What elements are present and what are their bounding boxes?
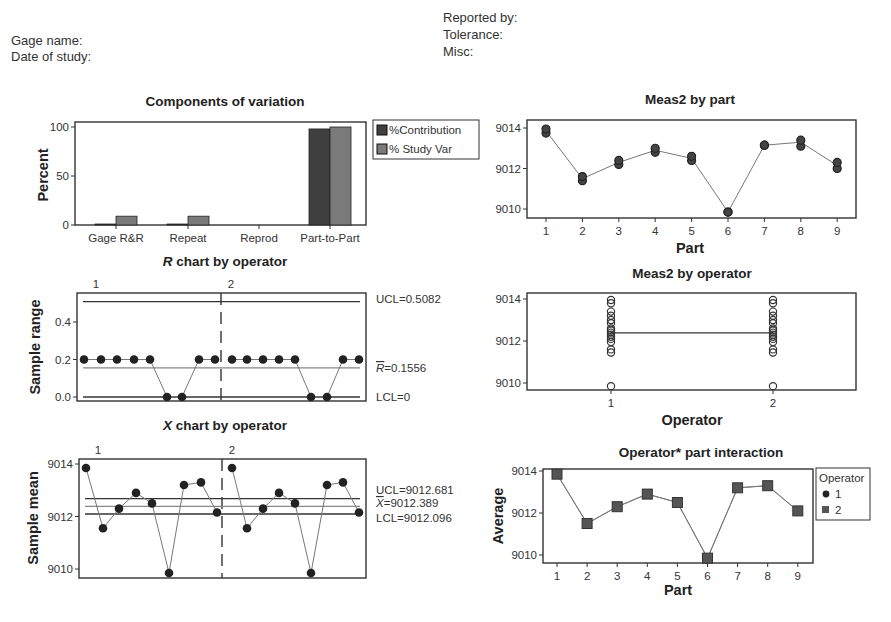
series-line (84, 360, 215, 398)
data-point (323, 481, 332, 490)
legend-label: %Contribution (389, 124, 461, 136)
components-x-tick-label: Gage R&R (88, 232, 144, 244)
data-point (355, 355, 364, 364)
x-tick-label: 2 (770, 397, 776, 409)
interaction-plot-area: 901090129014123456789Operator12 (511, 465, 870, 582)
data-point (195, 355, 204, 364)
data-point (582, 519, 592, 529)
y-tick-label: 9014 (495, 293, 521, 305)
data-point (165, 569, 174, 578)
data-point (228, 355, 237, 364)
data-point (688, 152, 696, 160)
operator-label: 2 (229, 444, 235, 456)
series-line (557, 474, 798, 558)
x-tick-label: 6 (725, 225, 731, 237)
data-point (615, 156, 623, 164)
components-x-tick-label: Reprod (240, 232, 278, 244)
data-point (724, 208, 732, 216)
data-point (642, 489, 652, 499)
interaction-ylabel: Average (490, 488, 506, 545)
y-tick-label: 0.4 (55, 316, 72, 328)
x-tick-label: 9 (834, 225, 840, 237)
data-point (80, 355, 89, 364)
square-marker-icon (822, 506, 829, 513)
center-label: X=9012.389 (375, 497, 438, 509)
y-tick-label: 9014 (47, 458, 73, 470)
circle-marker-icon (823, 491, 830, 498)
interaction-xlabel: Part (664, 582, 692, 598)
x-tick-label: 5 (674, 570, 680, 582)
components-x-tick-label: Repeat (169, 232, 207, 244)
meas-by-part-plot-area: 901090129014123456789 (495, 120, 856, 237)
data-point (833, 158, 841, 166)
operator-label: 1 (95, 444, 101, 456)
data-point (291, 355, 300, 364)
x-tick-label: 1 (554, 570, 560, 582)
meas-by-operator-chart: Meas2 by operator Operator 9010901290141… (495, 266, 856, 428)
control-chart-frame (77, 293, 366, 401)
y-tick-label: 9010 (511, 549, 537, 561)
data-point (180, 481, 189, 490)
data-point (213, 508, 222, 517)
x-tick-label: 6 (704, 570, 710, 582)
data-point (259, 504, 268, 513)
x-tick-label: 7 (761, 225, 767, 237)
y-tick-label: 9010 (495, 377, 521, 389)
data-point (339, 478, 348, 487)
legend-label: 2 (835, 504, 841, 516)
r-chart-by-operator: R chart by operator Sample range 0.00.20… (27, 254, 441, 403)
data-point (113, 355, 122, 364)
data-point (132, 489, 141, 498)
gage-rr-report-canvas: Components of variation Percent 050100Ga… (0, 0, 891, 622)
y-tick-label: 9010 (47, 563, 73, 575)
xbar-chart-title: X chart by operator (162, 418, 288, 433)
x-tick-label: 1 (608, 397, 614, 409)
ucl-label: UCL=9012.681 (376, 484, 454, 496)
meas-by-part-title: Meas2 by part (645, 92, 736, 107)
meas-by-part-frame (527, 120, 856, 218)
bar-contribution (95, 224, 116, 225)
y-tick-label: 9014 (495, 122, 521, 134)
data-point (243, 524, 252, 533)
data-point (275, 489, 284, 498)
data-point (763, 481, 773, 491)
mean-line (546, 131, 837, 212)
data-point (797, 136, 805, 144)
data-point (148, 499, 157, 508)
data-point (130, 355, 139, 364)
x-tick-label: 9 (795, 570, 801, 582)
ucl-label: UCL=0.5082 (376, 293, 441, 305)
data-point (578, 173, 586, 181)
meas-by-part-chart: Meas2 by part Part 901090129014123456789 (495, 92, 856, 256)
components-title: Components of variation (145, 94, 304, 109)
bar-studyvar (330, 127, 351, 225)
x-tick-label: 1 (543, 225, 549, 237)
data-point (99, 524, 108, 533)
operator-label: 1 (93, 278, 99, 290)
x-tick-label: 2 (584, 570, 590, 582)
data-point (307, 569, 316, 578)
data-point (612, 502, 622, 512)
x-tick-label: 8 (764, 570, 770, 582)
data-point (733, 483, 743, 493)
meas-by-part-xlabel: Part (676, 240, 704, 256)
y-tick-label: 9010 (495, 203, 521, 215)
meas-by-operator-frame (527, 293, 856, 390)
components-y-tick-label: 50 (56, 170, 69, 182)
meas-by-operator-plot-area: 90109012901412 (495, 293, 856, 409)
data-point (291, 499, 300, 508)
center-label: R=0.1556 (376, 362, 426, 374)
x-tick-label: 5 (688, 225, 694, 237)
x-tick-label: 2 (579, 225, 585, 237)
x-tick-label: 3 (614, 570, 620, 582)
operator-label: 2 (228, 278, 234, 290)
y-tick-label: 9014 (511, 465, 537, 477)
meas-by-operator-xlabel: Operator (661, 412, 723, 428)
xbar-chart-by-operator: X chart by operator Sample mean 90109012… (25, 418, 454, 578)
components-ylabel: Percent (35, 148, 51, 201)
data-point (542, 125, 550, 133)
interaction-title: Operator* part interaction (619, 445, 783, 460)
data-point (355, 508, 364, 517)
data-point (793, 506, 803, 516)
x-tick-label: 3 (616, 225, 622, 237)
